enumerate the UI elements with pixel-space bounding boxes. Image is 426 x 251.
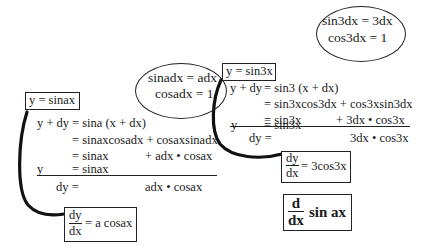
left-line4-rhs-a: = sinax xyxy=(72,162,109,176)
left-dy-lhs: dy = xyxy=(56,180,79,194)
left-line3-rhs-a: = sinax xyxy=(72,149,109,163)
left-identity-line2: cosadx = 1 xyxy=(155,87,214,101)
left-result-denominator: dx xyxy=(69,225,82,238)
right-result-fraction: dy dx xyxy=(286,152,299,179)
title-denominator: dx xyxy=(288,213,304,227)
right-line1-lhs: y + dy xyxy=(230,81,262,95)
left-result-rhs: = a cosax xyxy=(85,216,132,230)
right-result-denominator: dx xyxy=(286,167,299,179)
title-expression: sin ax xyxy=(309,205,346,219)
right-function-label: y = sin3x xyxy=(226,64,273,78)
right-result-rhs: = 3cos3x xyxy=(301,159,347,173)
right-line2-rhs: = sin3xcos3dx + cos3xsin3dx xyxy=(264,97,412,111)
left-result-fraction: dy dx xyxy=(69,209,82,238)
right-dy-rhs: 3dx • cos3x xyxy=(350,131,409,145)
left-line1-rhs: = sina (x + dx) xyxy=(72,116,146,130)
left-identity-line1: sinadx = adx xyxy=(148,71,217,85)
left-dy-rhs: adx • cosax xyxy=(145,180,202,194)
right-identity-line2: cos3dx = 1 xyxy=(328,31,387,45)
left-function-label: y = sinax xyxy=(29,93,75,107)
right-line1-rhs: = sin3 (x + dx) xyxy=(264,81,339,95)
right-line4-rhs-a: = sin3x xyxy=(264,118,301,132)
left-result-numerator: dy xyxy=(69,209,82,222)
right-result-numerator: dy xyxy=(286,152,299,164)
left-line3-rhs-b: + adx • cosax xyxy=(145,149,212,163)
left-line2-rhs: = sinaxcosadx + cosaxsinadx xyxy=(72,133,218,147)
right-identity-line1: sin3dx = 3dx xyxy=(322,14,393,28)
right-dy-lhs: dy = xyxy=(249,131,272,145)
left-line4-lhs: y xyxy=(37,162,43,176)
title-numerator: d xyxy=(292,196,300,210)
title-fraction: d dx xyxy=(288,196,304,227)
right-line4-lhs: y xyxy=(231,118,237,132)
left-subtraction-line xyxy=(37,175,217,176)
right-subtraction-line xyxy=(230,126,410,127)
right-line3-rhs-b: + 3dx • cos3x xyxy=(336,113,405,127)
left-line1-lhs: y + dy xyxy=(37,116,69,130)
